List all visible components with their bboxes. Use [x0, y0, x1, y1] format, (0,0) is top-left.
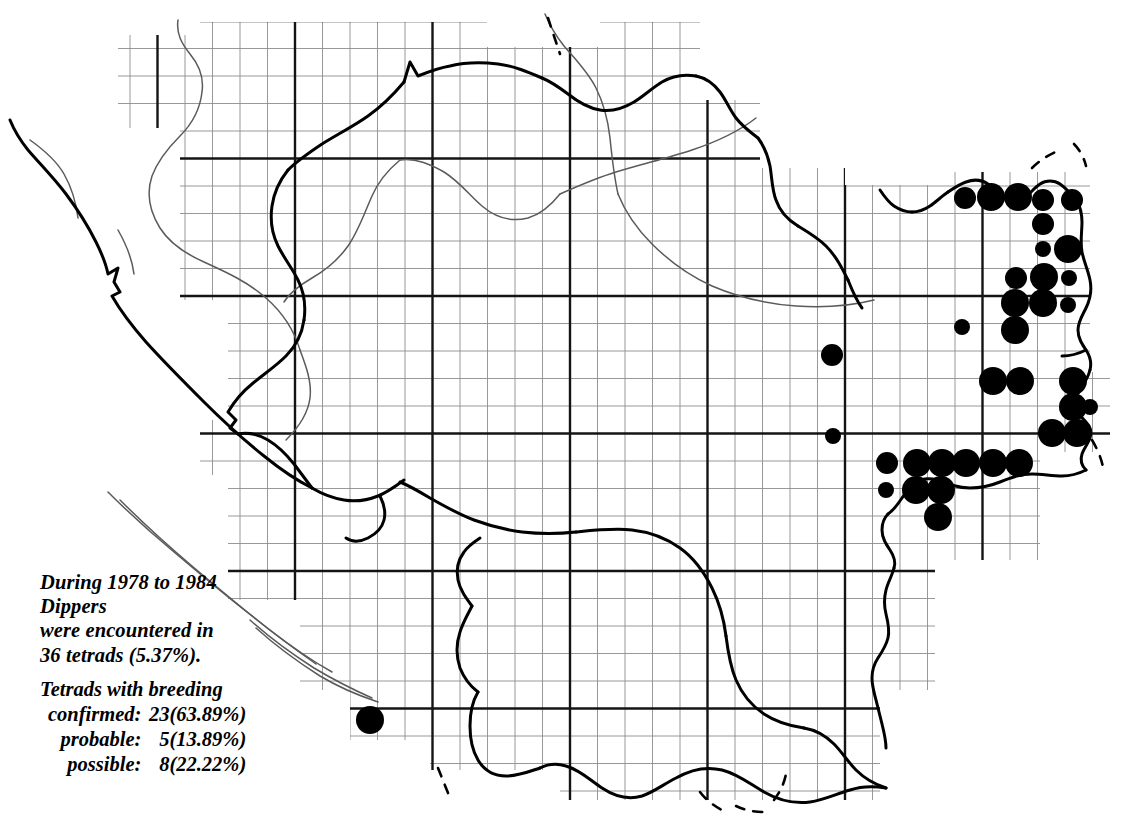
- legend-row-label: confirmed:: [48, 702, 141, 727]
- distribution-dot-large: [1001, 289, 1029, 317]
- distribution-dot-large: [1059, 367, 1087, 395]
- legend-total-tetrads: 36 tetrads (5.37%).: [40, 643, 340, 667]
- distribution-dot-small: [1082, 399, 1098, 415]
- distribution-dot-medium: [1061, 189, 1083, 211]
- distribution-dot-large: [1001, 316, 1029, 344]
- legend-row-percent: (63.89%): [169, 702, 246, 727]
- legend-row-count: 8: [141, 752, 169, 777]
- distribution-dot-large: [1054, 235, 1082, 263]
- table-row: confirmed: 23 (63.89%): [48, 702, 246, 727]
- legend-survey-period: During 1978 to 1984: [40, 570, 340, 594]
- distribution-dot-small: [878, 482, 894, 498]
- distribution-dot-small: [1060, 297, 1076, 313]
- distribution-dot-large: [1005, 449, 1033, 477]
- legend-row-count: 23: [141, 702, 169, 727]
- distribution-dot-medium: [1005, 267, 1027, 289]
- distribution-dot-large: [924, 503, 952, 531]
- distribution-dot-small: [1061, 270, 1077, 286]
- distribution-dot-large: [1029, 289, 1057, 317]
- distribution-dot-large: [1004, 183, 1032, 211]
- distribution-dot-large: [1038, 419, 1066, 447]
- distribution-dot-medium: [821, 344, 843, 366]
- legend-caption: During 1978 to 1984 Dippers were encount…: [40, 570, 340, 778]
- distribution-dot-large: [952, 449, 980, 477]
- legend-row-count: 5: [141, 727, 169, 752]
- distribution-dot-large: [902, 476, 930, 504]
- distribution-dot-large: [1006, 367, 1034, 395]
- distribution-dot-medium: [1032, 213, 1054, 235]
- legend-row-label: probable:: [48, 727, 141, 752]
- distribution-dot-small: [954, 319, 970, 335]
- distribution-dot-large: [977, 183, 1005, 211]
- legend-breeding-heading: Tetrads with breeding: [40, 677, 340, 701]
- distribution-dot-large: [979, 367, 1007, 395]
- distribution-dot-medium: [876, 452, 898, 474]
- distribution-dot-medium: [954, 187, 976, 209]
- legend-row-percent: (13.89%): [169, 727, 246, 752]
- distribution-dot-small: [1035, 241, 1051, 257]
- breeding-status-table: confirmed: 23 (63.89%) probable: 5 (13.8…: [48, 702, 246, 778]
- distribution-dot-large: [979, 449, 1007, 477]
- legend-species-name: Dippers: [40, 594, 340, 618]
- distribution-dot-large: [1030, 263, 1058, 291]
- table-row: possible: 8 (22.22%): [48, 752, 246, 777]
- distribution-dot-medium: [1032, 189, 1054, 211]
- table-row: probable: 5 (13.89%): [48, 727, 246, 752]
- legend-row-percent: (22.22%): [169, 752, 246, 777]
- distribution-dot-small: [825, 428, 841, 444]
- distribution-dot-large: [1063, 419, 1091, 447]
- distribution-dot-large: [356, 706, 384, 734]
- legend-spacer: [40, 667, 340, 677]
- distribution-dot-large: [928, 449, 956, 477]
- legend-encounter-text: were encountered in: [40, 618, 340, 642]
- legend-row-label: possible:: [48, 752, 141, 777]
- distribution-dot-large: [903, 449, 931, 477]
- distribution-dot-large: [927, 476, 955, 504]
- distribution-map: During 1978 to 1984 Dippers were encount…: [0, 0, 1130, 822]
